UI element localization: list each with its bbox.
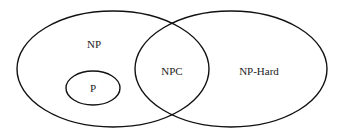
npc-label: NPC bbox=[161, 65, 182, 77]
nphard-label: NP-Hard bbox=[239, 65, 279, 77]
p-label: P bbox=[90, 82, 96, 94]
np-label: NP bbox=[87, 38, 101, 50]
venn-diagram: NP P NPC NP-Hard bbox=[0, 0, 339, 134]
